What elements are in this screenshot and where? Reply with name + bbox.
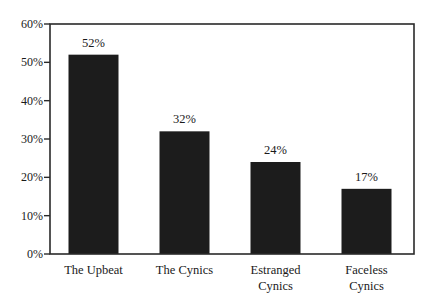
x-category-label: Estranged: [251, 263, 302, 277]
y-tick-label: 20%: [21, 170, 43, 184]
x-category-label: Faceless: [345, 263, 387, 277]
y-tick-label: 30%: [21, 132, 43, 146]
bar-value-label: 17%: [355, 170, 378, 184]
y-tick-label: 60%: [21, 17, 43, 31]
x-category-label: The Cynics: [156, 263, 213, 277]
y-tick-label: 50%: [21, 55, 43, 69]
bar-value-label: 32%: [173, 112, 196, 126]
x-axis-categories: The UpbeatThe CynicsEstrangedCynicsFacel…: [64, 263, 388, 293]
y-tick-label: 0%: [27, 247, 43, 261]
y-axis: 0%10%20%30%40%50%60%: [21, 17, 50, 261]
bar-value-label: 52%: [82, 36, 105, 50]
bar-chart: 52%32%24%17% 0%10%20%30%40%50%60% The Up…: [0, 0, 431, 298]
y-tick-label: 10%: [21, 209, 43, 223]
bars-group: [69, 55, 392, 254]
bar: [251, 162, 301, 254]
y-tick-label: 40%: [21, 94, 43, 108]
bar: [160, 131, 210, 254]
bar: [342, 189, 392, 254]
bar: [69, 55, 119, 254]
bar-value-label: 24%: [264, 143, 287, 157]
x-category-label: The Upbeat: [64, 263, 123, 277]
x-category-label: Cynics: [349, 279, 384, 293]
bar-value-labels: 52%32%24%17%: [82, 36, 378, 184]
x-category-label: Cynics: [258, 279, 293, 293]
